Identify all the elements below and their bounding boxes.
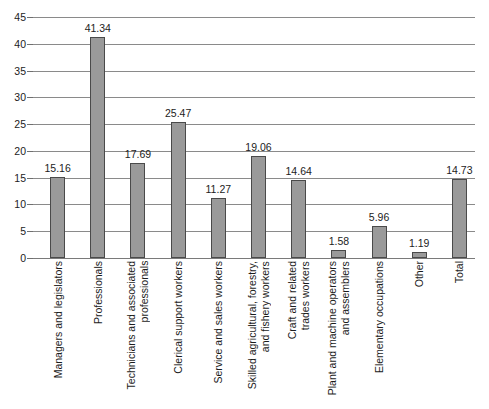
x-axis-category-labels: Managers and legislatorsProfessionalsTec… bbox=[33, 259, 475, 409]
x-axis-category-label: Technicians and associated professionals bbox=[125, 261, 150, 389]
y-axis-tick-label: 5 bbox=[0, 226, 26, 236]
x-axis-category-label: Plant and machine operators and assemble… bbox=[326, 261, 351, 395]
gridline bbox=[33, 17, 475, 18]
x-axis-category-label: Skilled agricultural, forestry, and fish… bbox=[246, 261, 271, 389]
y-axis-tick-label: 25 bbox=[0, 119, 26, 129]
bar bbox=[372, 226, 387, 258]
bar bbox=[171, 122, 186, 258]
x-axis-category-label: Professionals bbox=[92, 261, 105, 324]
bar-chart: 051015202530354045 15.1641.3417.6925.471… bbox=[0, 0, 489, 409]
bar-value-label: 5.96 bbox=[349, 212, 409, 223]
x-axis-category-label: Total bbox=[453, 261, 466, 283]
y-axis-tick-label: 30 bbox=[0, 92, 26, 102]
y-axis-tick-label: 20 bbox=[0, 146, 26, 156]
bar-value-label: 14.64 bbox=[269, 166, 329, 177]
bar bbox=[130, 163, 145, 258]
bar-value-label: 15.16 bbox=[28, 163, 88, 174]
x-axis-category-label: Craft and related trades workers bbox=[286, 261, 311, 339]
bar-value-label: 17.69 bbox=[108, 149, 168, 160]
bar bbox=[211, 198, 226, 258]
bar-value-label: 19.06 bbox=[229, 142, 289, 153]
bar-value-label: 25.47 bbox=[148, 108, 208, 119]
bar-value-label: 41.34 bbox=[68, 23, 128, 34]
bar-value-label: 1.58 bbox=[309, 236, 369, 247]
x-axis-category-label: Managers and legislators bbox=[52, 261, 65, 378]
bar-value-label: 11.27 bbox=[188, 184, 248, 195]
y-axis-tick-label: 40 bbox=[0, 39, 26, 49]
x-axis-category-label: Clerical support workers bbox=[172, 261, 185, 374]
y-axis-tick-label: 10 bbox=[0, 199, 26, 209]
bar bbox=[90, 37, 105, 258]
x-axis-category-label: Elementary occupations bbox=[373, 261, 386, 373]
x-axis-category-label: Other bbox=[413, 261, 426, 287]
y-axis-tick-label: 0 bbox=[0, 253, 26, 263]
bar-value-label: 14.73 bbox=[429, 165, 489, 176]
bar bbox=[50, 177, 65, 258]
x-axis-category-label: Service and sales workers bbox=[212, 261, 225, 384]
bar bbox=[331, 250, 346, 258]
y-axis-tick-label: 45 bbox=[0, 12, 26, 22]
bar bbox=[452, 179, 467, 258]
plot-area: 15.1641.3417.6925.4711.2719.0614.641.585… bbox=[33, 17, 475, 258]
y-axis-tick-label: 35 bbox=[0, 66, 26, 76]
bar bbox=[251, 156, 266, 258]
bar-value-label: 1.19 bbox=[389, 238, 449, 249]
bar bbox=[412, 252, 427, 258]
bar bbox=[291, 180, 306, 258]
y-axis-tick-label: 15 bbox=[0, 173, 26, 183]
